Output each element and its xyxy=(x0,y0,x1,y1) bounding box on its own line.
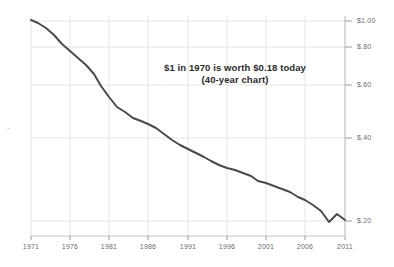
chart-plot-area xyxy=(0,0,394,267)
y-axis-ticks xyxy=(345,21,352,221)
x-tick-label-1991: 1991 xyxy=(173,243,203,250)
y-tick-label-3: $.60 xyxy=(357,81,371,88)
scan-artifact-speck xyxy=(7,128,10,129)
chart-figure: $1 in 1970 is worth $0.18 today (40-year… xyxy=(0,0,394,267)
y-tick-label-5: $.20 xyxy=(357,217,371,224)
chart-annotation: $1 in 1970 is worth $0.18 today (40-year… xyxy=(120,62,350,86)
annotation-line-1: $1 in 1970 is worth $0.18 today xyxy=(164,62,306,73)
x-tick-label-1971: 1971 xyxy=(16,243,46,250)
x-tick-label-1996: 1996 xyxy=(212,243,242,250)
x-tick-label-2006: 2006 xyxy=(290,243,320,250)
x-axis-ticks xyxy=(31,236,345,240)
y-tick-label-4: $.40 xyxy=(357,134,371,141)
x-tick-label-2011: 2011 xyxy=(330,243,360,250)
y-tick-label-1: $1.00 xyxy=(357,17,376,24)
x-tick-label-2001: 2001 xyxy=(251,243,281,250)
y-tick-label-2: $.80 xyxy=(357,43,371,50)
x-tick-label-1986: 1986 xyxy=(133,243,163,250)
vertical-gridlines xyxy=(31,16,345,236)
annotation-line-2: (40-year chart) xyxy=(120,74,350,86)
x-tick-label-1981: 1981 xyxy=(94,243,124,250)
x-tick-label-1976: 1976 xyxy=(55,243,85,250)
